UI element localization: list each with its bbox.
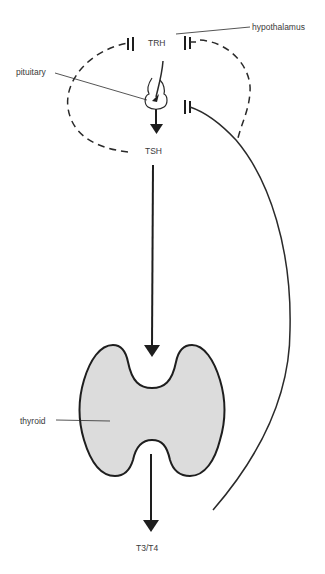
tsh-label: TSH — [145, 146, 162, 156]
t3t4-label: T3/T4 — [136, 543, 158, 553]
pituitary-leader-line — [55, 73, 147, 100]
left-feedback-loop — [68, 43, 128, 152]
trh-arrowhead — [152, 94, 159, 102]
thyroid-label: thyroid — [20, 416, 46, 426]
tsh-arrowhead — [150, 124, 163, 134]
hypothalamus-leader-line — [176, 27, 250, 34]
trh-label: TRH — [148, 38, 165, 48]
t3t4-arrowhead — [143, 520, 159, 532]
tsh-to-thyroid-line — [152, 165, 153, 346]
thyroid-axis-diagram: TRH hypothalamus pituitary TSH thyroid T… — [0, 0, 325, 574]
pituitary-label: pituitary — [16, 67, 47, 77]
hypothalamus-label: hypothalamus — [252, 22, 305, 32]
trh-to-pituitary-line — [156, 61, 163, 97]
thyroid-input-arrowhead — [144, 345, 160, 357]
right-feedback-loop — [200, 40, 250, 138]
